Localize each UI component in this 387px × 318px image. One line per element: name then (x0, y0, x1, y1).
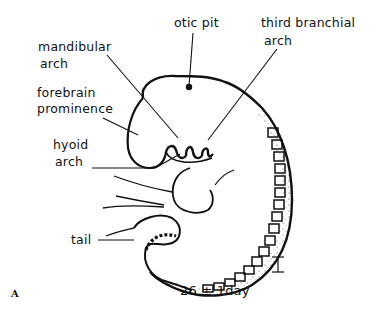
label-hyoid-arch-line1: hyoid (53, 137, 88, 152)
label-third-branchial-arch-line2: arch (264, 33, 292, 48)
tail-curl (134, 216, 192, 290)
label-tail: tail (71, 232, 91, 247)
label-hyoid-arch-line2: arch (55, 154, 83, 169)
limb-bud (215, 170, 234, 185)
label-forebrain-prominence-line2: prominence (37, 101, 113, 116)
leader-lines (92, 33, 277, 240)
label-otic-pit: otic pit (174, 15, 219, 30)
figure-caption: 26 ± 1day (180, 283, 250, 298)
heart-prominence (173, 168, 213, 213)
label-mandibular-arch-line1: mandibular (38, 39, 111, 54)
panel-label: A (11, 288, 19, 299)
embryo-body (103, 76, 292, 296)
label-third-branchial-arch-line1: third branchial (261, 15, 355, 30)
label-mandibular-arch-line2: arch (40, 56, 68, 71)
ventral-stalks (103, 176, 172, 236)
branchial-arches (166, 146, 213, 162)
label-forebrain-prominence-line1: forebrain (37, 85, 96, 100)
